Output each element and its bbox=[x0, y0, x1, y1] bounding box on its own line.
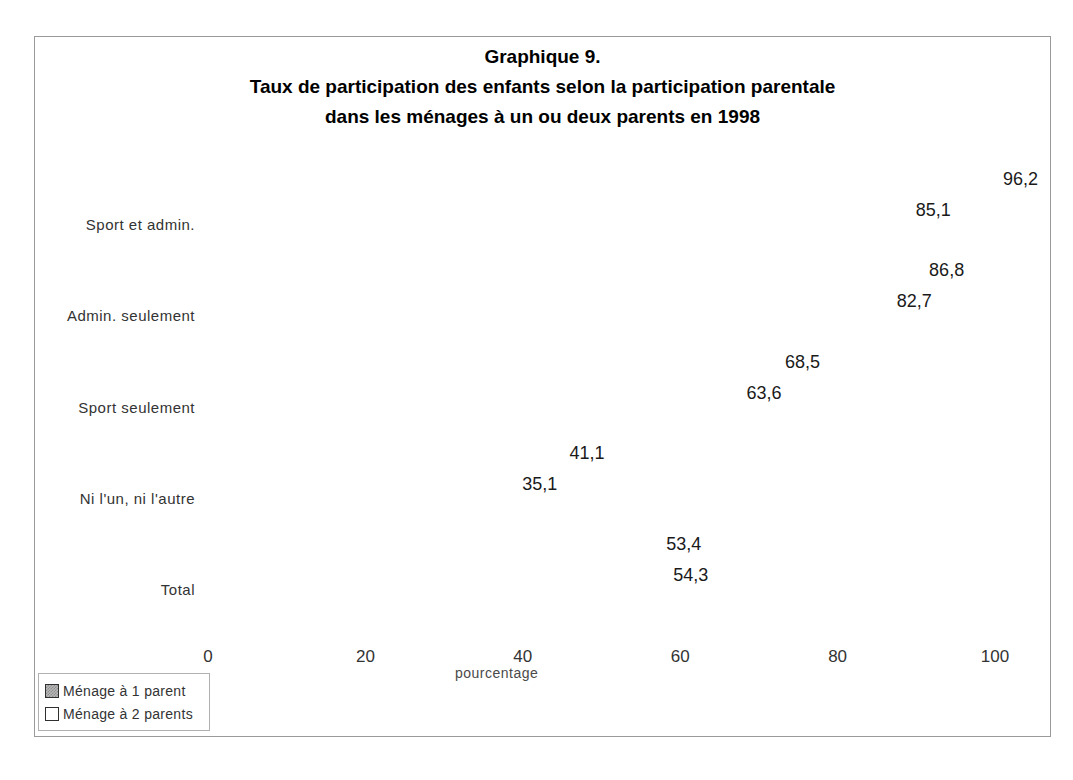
value-label-menage-2-parents: 54,3 bbox=[673, 565, 708, 586]
x-tick-label: 40 bbox=[493, 647, 553, 667]
legend-label-1: Ménage à 1 parent bbox=[63, 683, 186, 699]
value-label-menage-1-parent: 68,5 bbox=[785, 352, 820, 373]
chart-title-line-1: Graphique 9. bbox=[34, 42, 1051, 72]
value-label-menage-1-parent: 53,4 bbox=[666, 534, 701, 555]
value-label-menage-1-parent: 96,2 bbox=[1003, 169, 1038, 190]
legend-item-menage-2-parents[interactable]: Ménage à 2 parents bbox=[45, 702, 205, 725]
chart-title-line-3: dans les ménages à un ou deux parents en… bbox=[34, 102, 1051, 132]
value-label-menage-2-parents: 85,1 bbox=[916, 200, 951, 221]
y-category-label: Sport et admin. bbox=[40, 216, 195, 233]
x-tick-label: 60 bbox=[650, 647, 710, 667]
value-label-menage-2-parents: 82,7 bbox=[897, 291, 932, 312]
chart-title: Graphique 9. Taux de participation des e… bbox=[34, 42, 1051, 132]
y-category-label: Ni l'un, ni l'autre bbox=[40, 490, 195, 507]
chart-title-line-2: Taux de participation des enfants selon … bbox=[34, 72, 1051, 102]
value-label-menage-1-parent: 41,1 bbox=[569, 443, 604, 464]
x-tick-label: 100 bbox=[965, 647, 1025, 667]
value-label-menage-1-parent: 86,8 bbox=[929, 260, 964, 281]
y-category-label: Total bbox=[40, 581, 195, 598]
x-tick-label: 0 bbox=[178, 647, 238, 667]
figure-border bbox=[34, 36, 1051, 737]
legend-item-menage-1-parent[interactable]: Ménage à 1 parent bbox=[45, 679, 205, 702]
y-category-label: Sport seulement bbox=[40, 399, 195, 416]
x-tick-label: 80 bbox=[808, 647, 868, 667]
legend-swatch-icon-white bbox=[45, 707, 59, 721]
x-tick-label: 20 bbox=[335, 647, 395, 667]
chart-legend: Ménage à 1 parent Ménage à 2 parents bbox=[38, 673, 210, 731]
chart-figure: Graphique 9. Taux de participation des e… bbox=[0, 0, 1073, 780]
value-label-menage-2-parents: 63,6 bbox=[747, 383, 782, 404]
legend-label-2: Ménage à 2 parents bbox=[63, 706, 193, 722]
y-category-label: Admin. seulement bbox=[40, 307, 195, 324]
x-axis-title: pourcentage bbox=[455, 665, 538, 681]
legend-swatch-icon-gray bbox=[45, 684, 59, 698]
value-label-menage-2-parents: 35,1 bbox=[522, 474, 557, 495]
